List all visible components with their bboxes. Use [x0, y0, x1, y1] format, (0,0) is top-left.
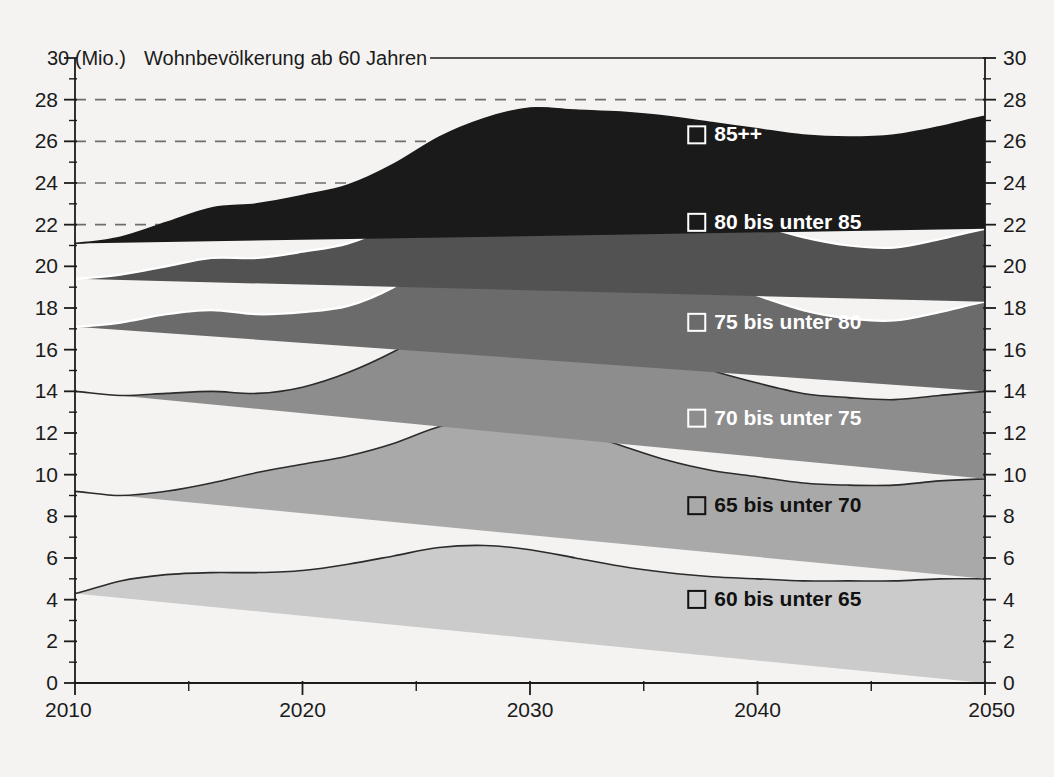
y-tick-label-right-28: 28: [1003, 88, 1026, 111]
y-tick-label-18: 18: [35, 296, 58, 319]
y-tick-label-right-16: 16: [1003, 338, 1026, 361]
legend-label: 65 bis unter 70: [714, 493, 861, 516]
y-tick-label-6: 6: [46, 546, 58, 569]
y-tick-label-26: 26: [35, 129, 58, 152]
y-tick-label-16: 16: [35, 338, 58, 361]
chart-title: Wohnbevölkerung ab 60 Jahren: [144, 47, 427, 69]
y-tick-label-right-6: 6: [1003, 546, 1015, 569]
y-tick-label-0: 0: [46, 671, 58, 694]
y-tick-label-14: 14: [35, 379, 59, 402]
legend-item-80-bis-unter-85[interactable]: 80 bis unter 85: [688, 210, 861, 233]
y-tick-label-right-2: 2: [1003, 629, 1015, 652]
y-tick-label-right-0: 0: [1003, 671, 1015, 694]
x-tick-label-2050: 2050: [968, 698, 1015, 721]
y-tick-label-24: 24: [35, 171, 59, 194]
legend-label: 80 bis unter 85: [714, 210, 861, 233]
y-tick-label-4: 4: [46, 588, 58, 611]
y-tick-label-right-12: 12: [1003, 421, 1026, 444]
y-tick-label-right-20: 20: [1003, 254, 1026, 277]
x-tick-label-2040: 2040: [734, 698, 781, 721]
y-tick-label-28: 28: [35, 88, 58, 111]
chart-figure: 0246810121416182022242628 02468101214161…: [0, 0, 1054, 777]
legend-item-70-bis-unter-75[interactable]: 70 bis unter 75: [688, 406, 861, 429]
x-tick-label-2010: 2010: [45, 698, 92, 721]
y-tick-label-right-8: 8: [1003, 504, 1015, 527]
y-tick-label-right-10: 10: [1003, 463, 1026, 486]
legend-label: 60 bis unter 65: [714, 587, 861, 610]
y-tick-label-22: 22: [35, 213, 58, 236]
x-tick-label-2030: 2030: [507, 698, 554, 721]
y-tick-label-right-24: 24: [1003, 171, 1027, 194]
y-tick-label-right-18: 18: [1003, 296, 1026, 319]
legend-label: 85++: [714, 122, 762, 145]
y-tick-label-right-14: 14: [1003, 379, 1027, 402]
legend-item-60-bis-unter-65[interactable]: 60 bis unter 65: [688, 587, 861, 610]
y-tick-label-right-30: 30: [1003, 46, 1026, 69]
legend-label: 70 bis unter 75: [714, 406, 861, 429]
y-tick-label-8: 8: [46, 504, 58, 527]
legend-item-65-bis-unter-70[interactable]: 65 bis unter 70: [688, 493, 861, 516]
stacked-area-chart: 0246810121416182022242628 02468101214161…: [0, 0, 1054, 777]
y-tick-label-20: 20: [35, 254, 58, 277]
y-tick-label-right-4: 4: [1003, 588, 1015, 611]
y-tick-label-10: 10: [35, 463, 58, 486]
legend-label: 75 bis unter 80: [714, 310, 861, 333]
y-tick-label-12: 12: [35, 421, 58, 444]
y-axis-unit-label: 30 (Mio.): [47, 47, 126, 69]
y-tick-label-2: 2: [46, 629, 58, 652]
y-tick-label-right-26: 26: [1003, 129, 1026, 152]
x-tick-label-2020: 2020: [279, 698, 326, 721]
legend-item-75-bis-unter-80[interactable]: 75 bis unter 80: [688, 310, 861, 333]
y-tick-label-right-22: 22: [1003, 213, 1026, 236]
